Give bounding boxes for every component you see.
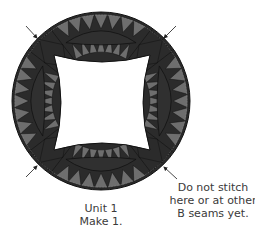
stitch-note-line-2: here or at other [168,194,255,207]
arrow-top-left-icon [26,26,37,38]
arrow-bottom-left-icon [26,166,37,177]
arrow-top-right-icon [164,26,176,38]
stitch-note-line-1: Do not stitch [168,181,255,194]
unit-label: Unit 1 [60,202,142,215]
stitch-note: Do not stitch here or at other B seams y… [168,181,255,220]
arrow-bottom-right-icon [164,167,177,179]
stitch-note-line-3: B seams yet. [168,207,255,220]
ring-band [12,12,190,190]
unit-caption: Unit 1 Make 1. [60,202,142,228]
center-opening [54,55,150,150]
make-count-label: Make 1. [60,215,142,228]
